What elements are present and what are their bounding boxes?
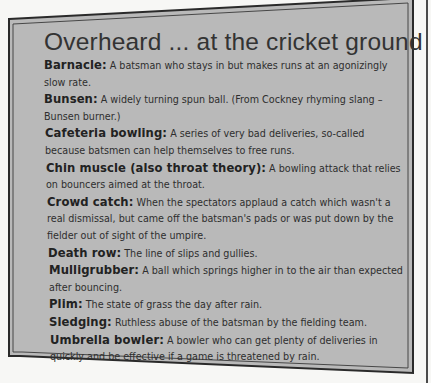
glossary-entry-bunsen: Bunsen: A widely turning spun ball. (Fro…: [44, 91, 406, 125]
entry-term: Plim:: [49, 297, 83, 311]
entry-definition: The state of grass the day after rain.: [83, 299, 262, 310]
entry-term: Mulligrubber:: [49, 263, 139, 277]
entry-term: Bunsen:: [44, 92, 98, 106]
glossary-entry-chin-muscle: Chin muscle (also throat theory): A bowl…: [46, 160, 406, 194]
entry-definition: The line of slips and gullies.: [121, 248, 257, 259]
glossary-entry-crowd-catch: Crowd catch: When the spectators applaud…: [47, 194, 406, 245]
glossary-entry-barnacle: Barnacle: A batsman who stays in but mak…: [44, 57, 406, 91]
entry-term: Chin muscle (also throat theory):: [46, 161, 266, 175]
glossary-box: Overheard ... at the cricket ground Barn…: [46, 28, 406, 366]
entry-term: Barnacle:: [44, 58, 107, 72]
glossary-entry-umbrella-bowler: Umbrella bowler: A bowler who can get pl…: [50, 332, 406, 366]
entry-term: Cafeteria bowling:: [45, 126, 167, 140]
entry-term: Death row:: [48, 246, 121, 260]
entry-definition: Ruthless abuse of the batsman by the fie…: [112, 317, 367, 328]
entry-term: Sledging:: [49, 315, 112, 329]
glossary-entry-cafeteria-bowling: Cafeteria bowling: A series of very bad …: [45, 125, 406, 159]
entry-term: Crowd catch:: [47, 195, 133, 209]
entry-term: Umbrella bowler:: [50, 333, 164, 347]
glossary-entry-death-row: Death row: The line of slips and gullies…: [48, 245, 406, 263]
glossary-entry-plim: Plim: The state of grass the day after r…: [49, 296, 406, 314]
glossary-entry-mulligrubber: Mulligrubber: A ball which springs highe…: [49, 262, 406, 296]
box-title: Overheard ... at the cricket ground: [44, 28, 406, 56]
glossary-entry-sledging: Sledging: Ruthless abuse of the batsman …: [49, 314, 406, 332]
